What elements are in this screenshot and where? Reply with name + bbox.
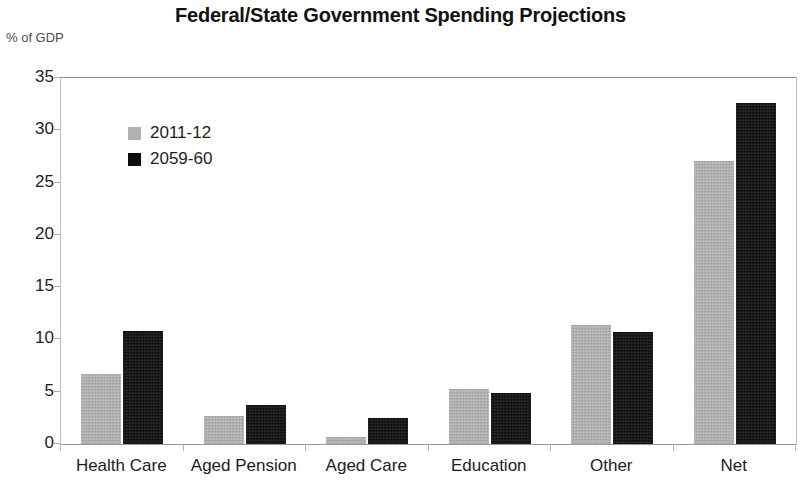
x-axis-category-label: Aged Care — [326, 456, 407, 476]
x-axis-category-label: Health Care — [76, 456, 167, 476]
bar — [694, 161, 734, 444]
bar — [368, 418, 408, 444]
x-axis-category-label: Other — [590, 456, 633, 476]
bar-group — [449, 78, 531, 444]
y-axis-tick-label: 15 — [8, 276, 54, 296]
bar-group — [694, 78, 776, 444]
chart-legend: 2011-122059-60 — [128, 120, 212, 172]
legend-item: 2011-12 — [128, 120, 212, 146]
x-axis-category-label: Net — [721, 456, 747, 476]
bar — [246, 405, 286, 444]
legend-item: 2059-60 — [128, 146, 212, 172]
y-axis-tick-label: 0 — [8, 433, 54, 453]
bar — [613, 332, 653, 444]
x-axis-category-label: Education — [451, 456, 527, 476]
x-axis: Health CareAged PensionAged CareEducatio… — [60, 444, 796, 482]
bar-group — [204, 78, 286, 444]
legend-label: 2059-60 — [150, 149, 212, 169]
bar-group — [326, 78, 408, 444]
x-axis-tick-mark — [673, 444, 674, 451]
bar — [571, 325, 611, 444]
bar — [326, 437, 366, 444]
x-axis-tick-mark — [183, 444, 184, 451]
y-axis-tick-label: 25 — [8, 172, 54, 192]
chart-figure: Federal/State Government Spending Projec… — [0, 0, 801, 482]
legend-label: 2011-12 — [150, 123, 211, 143]
x-axis-tick-mark — [795, 444, 796, 451]
x-axis-tick-mark — [305, 444, 306, 451]
x-axis-tick-mark — [428, 444, 429, 451]
bar — [123, 331, 163, 444]
x-axis-tick-mark — [550, 444, 551, 451]
bar — [736, 103, 776, 444]
chart-title: Federal/State Government Spending Projec… — [0, 4, 801, 27]
x-axis-tick-mark — [60, 444, 61, 451]
bar — [81, 374, 121, 444]
y-axis-label: % of GDP — [6, 30, 64, 45]
bar — [491, 393, 531, 444]
y-axis-ticks: 05101520253035 — [0, 77, 54, 443]
bar-group — [571, 78, 653, 444]
y-axis-tick-label: 10 — [8, 328, 54, 348]
bar — [449, 389, 489, 444]
y-axis-tick-label: 20 — [8, 224, 54, 244]
y-axis-tick-label: 30 — [8, 119, 54, 139]
x-axis-category-label: Aged Pension — [191, 456, 297, 476]
bar — [204, 416, 244, 444]
y-axis-tick-label: 5 — [8, 381, 54, 401]
y-axis-tick-label: 35 — [8, 67, 54, 87]
legend-swatch-icon — [128, 127, 141, 140]
legend-swatch-icon — [128, 153, 141, 166]
